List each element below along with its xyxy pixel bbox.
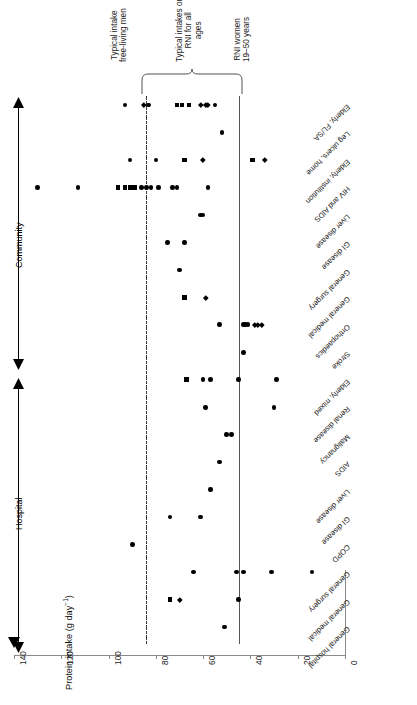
annotation-line-3: ages bbox=[194, 0, 203, 62]
community-arrow-bottom bbox=[12, 358, 25, 370]
hospital-arrow-top bbox=[12, 378, 25, 390]
axis-title-tail: ) bbox=[64, 595, 74, 598]
annotation-line-2: 19–50 years bbox=[242, 17, 251, 62]
annotation-typical-intakes-rni-all-ages: Typical intakes or RNI for all ages bbox=[175, 0, 203, 62]
annotation-typical-intake-free-living-men: Typical intake free-living men bbox=[110, 8, 129, 62]
axis-title: Protein intake (g day−1) bbox=[62, 595, 74, 690]
group-label-hospital: Hospital bbox=[14, 497, 24, 530]
annotation-line-2: free-living men bbox=[119, 8, 128, 62]
group-label-community: Community bbox=[14, 222, 24, 268]
annotation-line-1: Typical intake bbox=[110, 8, 119, 62]
axis-title-main: Protein intake (g day bbox=[64, 606, 74, 690]
figure-root: 020406080100120140 General hospitalGener… bbox=[0, 0, 417, 705]
community-arrow-top bbox=[12, 97, 25, 109]
annotation-line-2: RNI for all bbox=[184, 0, 193, 62]
axis-title-exponent: −1 bbox=[62, 598, 69, 606]
annotation-rni-women-19-50: RNI women 19–50 years bbox=[233, 17, 252, 62]
annotation-line-1: Typical intakes or bbox=[175, 0, 184, 62]
annotation-line-1: RNI women bbox=[233, 17, 242, 62]
hospital-arrow-bottom bbox=[12, 641, 25, 653]
